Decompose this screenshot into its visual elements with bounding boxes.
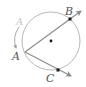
geometry-diagram: A A B C bbox=[0, 0, 86, 87]
point-c bbox=[57, 69, 60, 72]
label-vertex-a: A bbox=[11, 50, 20, 63]
label-point-b: B bbox=[64, 5, 73, 18]
arc-motion-arrow bbox=[15, 27, 19, 48]
center-point bbox=[50, 40, 53, 43]
label-point-c: C bbox=[46, 72, 55, 85]
label-vertex-ghost: A bbox=[15, 16, 23, 27]
